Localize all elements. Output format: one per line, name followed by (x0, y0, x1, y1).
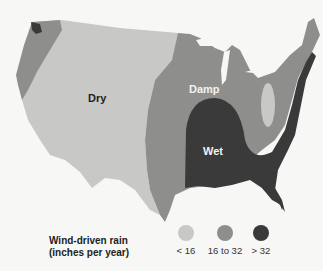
legend-label-low: < 16 (177, 245, 196, 256)
legend-item-mid: 16 to 32 (205, 225, 245, 256)
legend-item-high: > 32 (246, 225, 276, 256)
damp-label: Damp (189, 83, 220, 95)
legend-title-line1: Wind-driven rain (49, 235, 129, 247)
legend-title: Wind-driven rain (inches per year) (49, 235, 129, 259)
wet-label: Wet (203, 145, 223, 157)
legend-label-mid: 16 to 32 (208, 245, 242, 256)
legend-label-high: > 32 (252, 245, 271, 256)
legend-title-line2: (inches per year) (49, 247, 129, 259)
legend-swatch-mid (217, 225, 233, 241)
legend-item-low: < 16 (171, 225, 201, 256)
legend-swatch-low (178, 225, 194, 241)
lake-superior (196, 36, 230, 46)
dry-label: Dry (88, 92, 106, 104)
legend-swatch-high (253, 225, 269, 241)
dry-region-appalachian (261, 83, 275, 127)
